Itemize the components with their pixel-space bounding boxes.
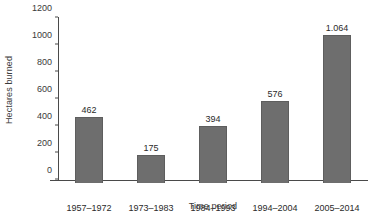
bar-value-label: 175 <box>143 143 158 153</box>
y-axis-tick-label: 1200 <box>32 3 58 13</box>
bar[interactable] <box>199 126 227 183</box>
y-axis-tick-label: 200 <box>37 138 58 148</box>
plot-area: 020040060080010001200 4621957–1972175197… <box>58 18 368 180</box>
y-axis-tick-label: 400 <box>37 111 58 121</box>
y-axis-tick-label: 800 <box>37 57 58 67</box>
bar-value-label: 462 <box>81 105 96 115</box>
bar-group[interactable]: 5761994–2004 <box>244 18 306 180</box>
x-axis-title: Time period <box>58 201 368 211</box>
y-axis-tick-label: 0 <box>47 165 58 175</box>
y-axis-tick-label: 600 <box>37 84 58 94</box>
bar-chart-figure: Hectares burned 020040060080010001200 46… <box>0 0 374 223</box>
bar-group[interactable]: 1.0642005–2014 <box>306 18 368 180</box>
bar-value-label: 394 <box>205 114 220 124</box>
bar-group[interactable]: 4621957–1972 <box>58 18 120 180</box>
y-axis-title-text: Hectares burned <box>4 56 14 124</box>
bar-group[interactable]: 3941984–1993 <box>182 18 244 180</box>
bar[interactable] <box>261 101 289 183</box>
bar[interactable] <box>323 35 351 183</box>
bar-value-label: 576 <box>267 89 282 99</box>
bar[interactable] <box>75 117 103 183</box>
bar-value-label: 1.064 <box>326 23 349 33</box>
bar[interactable] <box>137 155 165 183</box>
y-axis-tick-label: 1000 <box>32 30 58 40</box>
y-axis-title: Hectares burned <box>2 0 16 180</box>
bar-group[interactable]: 1751973–1983 <box>120 18 182 180</box>
